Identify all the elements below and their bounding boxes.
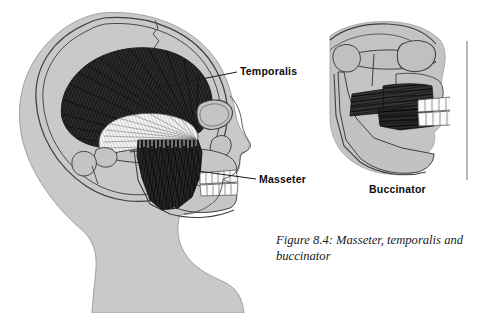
label-temporalis: Temporalis <box>240 65 297 77</box>
main-head-panel <box>19 12 256 313</box>
inset-teeth-upper <box>418 97 452 112</box>
figure-8-4-container: Temporalis Masseter Buccinator Figure 8.… <box>0 0 491 313</box>
inset-mandibular-condyle <box>333 44 360 72</box>
anatomy-illustration <box>0 0 491 313</box>
figure-caption: Figure 8.4: Masseter, temporalis and buc… <box>276 232 476 264</box>
inset-orbit-socket <box>397 41 435 72</box>
mandibular-condyle <box>94 148 117 168</box>
figure-caption-text: Figure 8.4: Masseter, temporalis and buc… <box>276 233 463 263</box>
label-buccinator: Buccinator <box>369 183 426 195</box>
buccinator-inset-panel <box>330 22 452 175</box>
inset-teeth-lower <box>418 111 452 126</box>
label-masseter: Masseter <box>259 173 306 185</box>
mastoid-process <box>72 151 97 176</box>
